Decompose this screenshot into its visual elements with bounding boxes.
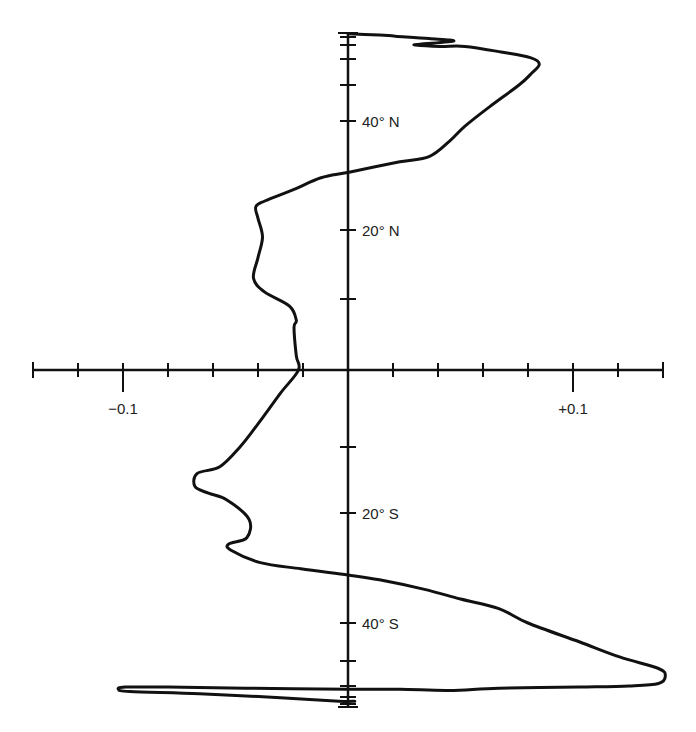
y-tick-label: 20° S xyxy=(362,505,399,522)
y-tick-label: 40° S xyxy=(362,615,399,632)
y-tick-label: 40° N xyxy=(362,113,400,130)
x-tick-label: −0.1 xyxy=(108,400,138,417)
y-tick-label: 20° N xyxy=(362,222,400,239)
x-tick-label: +0.1 xyxy=(558,400,588,417)
data-curve xyxy=(118,34,665,702)
latitude-profile-chart: −0.1+0.140° N20° N20° S40° S xyxy=(0,0,696,732)
axes xyxy=(33,33,663,707)
